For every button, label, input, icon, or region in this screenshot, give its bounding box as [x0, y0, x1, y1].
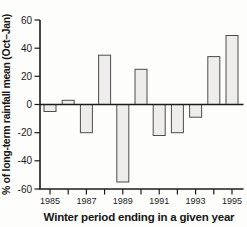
y-tick-label: -20 [18, 127, 33, 138]
x-tick-label: 1985 [40, 196, 60, 206]
bar-1989 [117, 105, 129, 183]
bar-1988 [99, 55, 111, 104]
x-axis-title: Winter period ending in a given year [44, 211, 236, 223]
bar-1987 [80, 105, 92, 133]
x-ticks-group: 198519871989199119931995 [40, 189, 242, 206]
bar-1993 [190, 105, 202, 118]
x-tick-label: 1987 [76, 196, 96, 206]
bar-1994 [208, 57, 220, 105]
y-tick-label: 40 [21, 43, 33, 54]
x-tick-label: 1995 [222, 196, 242, 206]
y-tick-label: 20 [21, 71, 33, 82]
y-tick-label: -40 [18, 155, 33, 166]
axes-group [39, 20, 243, 189]
bar-1992 [171, 105, 183, 133]
bar-1990 [135, 69, 147, 104]
y-axis-title: % of long-term rainfall mean (Oct–Jan) [0, 14, 12, 195]
x-tick-label: 1993 [186, 196, 206, 206]
y-tick-label: 60 [21, 15, 33, 26]
y-tick-label: -60 [18, 184, 33, 195]
x-tick-label: 1991 [149, 196, 169, 206]
rainfall-anomaly-figure: 6040200-20-40-60 19851987198919911993199… [0, 0, 247, 227]
bar-1991 [153, 105, 165, 136]
bar-1995 [226, 36, 238, 105]
y-tick-label: 0 [26, 99, 32, 110]
bar-1985 [44, 105, 56, 112]
y-ticks-group: 6040200-20-40-60 [18, 15, 40, 195]
x-tick-label: 1989 [113, 196, 133, 206]
bar-chart-canvas: 6040200-20-40-60 19851987198919911993199… [0, 0, 247, 227]
bars-group [44, 36, 238, 183]
